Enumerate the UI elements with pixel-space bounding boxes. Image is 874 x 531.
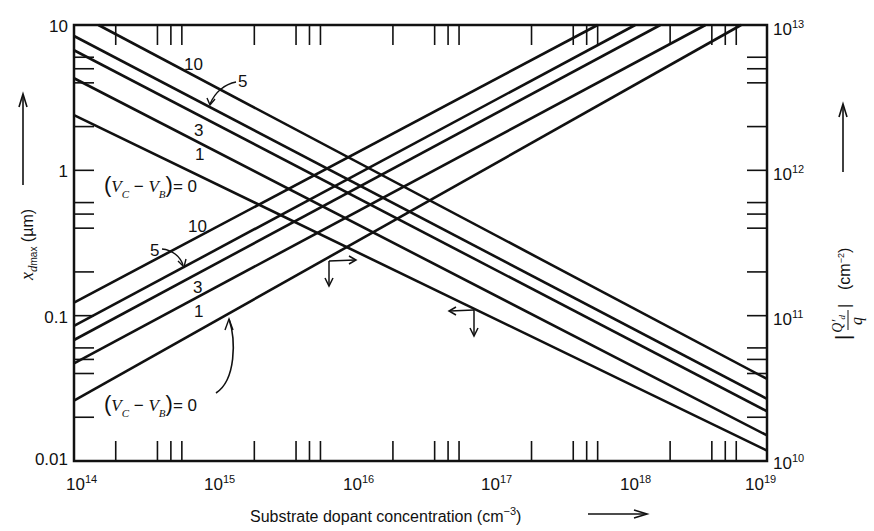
vcvb-label-bottom: (VC − VB)= 0 (104, 391, 197, 419)
depletion-chart: 1014 1015 1016 1017 1018 1019 10 1 0.1 0… (0, 0, 874, 531)
curves (74, 25, 767, 451)
xdmax-curve-10 (98, 25, 767, 379)
axis-direction-arrows (325, 256, 478, 336)
svg-text:5: 5 (150, 241, 159, 260)
svg-text:0.01: 0.01 (35, 450, 68, 469)
svg-text:10: 10 (184, 55, 203, 74)
xdmax-curve-3 (74, 50, 767, 411)
svg-text:1: 1 (59, 162, 68, 181)
x-axis-title: Substrate dopant concentration (cm−3) (250, 505, 521, 525)
svg-text:xdmax (µm): xdmax (µm) (17, 209, 40, 281)
svg-text:1: 1 (194, 302, 203, 321)
up-arrow-right (839, 104, 847, 172)
svg-text:1015: 1015 (204, 473, 235, 494)
svg-text:1010: 1010 (773, 452, 804, 473)
up-arrow-left (19, 94, 27, 185)
svg-text:1013: 1013 (773, 18, 804, 39)
svg-text:1014: 1014 (66, 473, 97, 494)
qd-curve-labels: 10 5 3 1 (VC − VB)= 0 (104, 217, 233, 419)
right-arrow-x (588, 510, 647, 518)
y-left-tick-labels: 10 1 0.1 0.01 (35, 17, 68, 469)
svg-text:3: 3 (194, 121, 203, 140)
qd-curve-3 (74, 25, 660, 340)
svg-text:|: | (836, 304, 853, 308)
svg-text:0.1: 0.1 (44, 308, 68, 327)
svg-text:1017: 1017 (481, 473, 512, 494)
y-right-tick-labels: 1013 1012 1011 1010 (773, 18, 804, 473)
svg-text:q: q (848, 317, 866, 325)
y-left-axis-title: xdmax (µm) (17, 209, 40, 281)
qd-curve-5 (74, 25, 635, 326)
svg-text:3: 3 (193, 278, 202, 297)
svg-text:1016: 1016 (343, 473, 374, 494)
svg-text:1018: 1018 (620, 473, 651, 494)
svg-text:5: 5 (238, 72, 247, 91)
svg-text:10: 10 (188, 217, 207, 236)
svg-text:(cm−2): (cm−2) (836, 248, 853, 290)
svg-text:1019: 1019 (745, 473, 776, 494)
y-right-axis-title: |Q′d q | (cm−2) (830, 248, 866, 340)
svg-text:1011: 1011 (773, 308, 803, 329)
svg-text:10: 10 (49, 17, 68, 36)
x-tick-labels: 1014 1015 1016 1017 1018 1019 (66, 473, 776, 494)
svg-text:1: 1 (195, 145, 204, 164)
xdmax-curve-5 (74, 36, 767, 399)
vcvb-label-top: (VC − VB)= 0 (104, 172, 197, 200)
svg-text:1012: 1012 (773, 163, 804, 184)
